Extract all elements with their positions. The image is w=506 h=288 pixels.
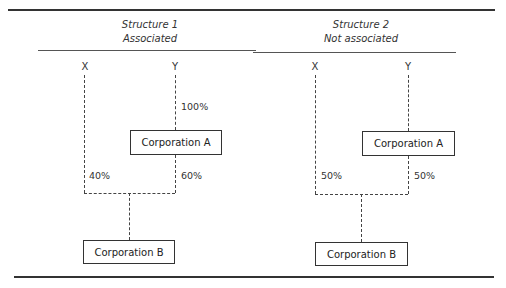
corporation-a-box: Corporation A [362, 131, 455, 156]
corporation-b-box: Corporation B [315, 242, 408, 266]
structure-2-header: Structure 2 Not associated [271, 18, 451, 46]
corporation-b-box: Corporation B [83, 240, 175, 264]
corporation-a-box: Corporation A [130, 130, 222, 155]
header-rule-structure-1 [38, 50, 256, 51]
x-to-b-percentage: 40% [89, 170, 110, 181]
structure-1-subtitle: Associated [60, 32, 240, 46]
y-ownership-line [175, 75, 176, 130]
shareholder-y-label: Y [169, 61, 181, 72]
a-to-b-percentage: 60% [181, 170, 202, 181]
a-ownership-line [408, 156, 409, 194]
x-ownership-line [315, 75, 316, 194]
top-rule [8, 9, 495, 11]
structure-2-title: Structure 2 [271, 18, 451, 32]
a-ownership-line [175, 155, 176, 193]
junction-to-b-line [129, 193, 130, 240]
structure-1-header: Structure 1 Associated [60, 18, 240, 46]
structure-1-title: Structure 1 [60, 18, 240, 32]
shareholder-x-label: X [309, 61, 321, 72]
y-ownership-line [408, 75, 409, 131]
x-ownership-line [84, 75, 85, 193]
junction-to-b-line [361, 194, 362, 242]
a-to-b-percentage: 50% [414, 170, 435, 181]
shareholder-x-label: X [79, 61, 91, 72]
shareholder-y-label: Y [402, 61, 414, 72]
bottom-rule [14, 276, 494, 278]
x-to-b-percentage: 50% [321, 170, 342, 181]
header-rule-structure-2 [253, 52, 456, 53]
structure-2-subtitle: Not associated [271, 32, 451, 46]
y-to-a-percentage: 100% [181, 101, 208, 112]
